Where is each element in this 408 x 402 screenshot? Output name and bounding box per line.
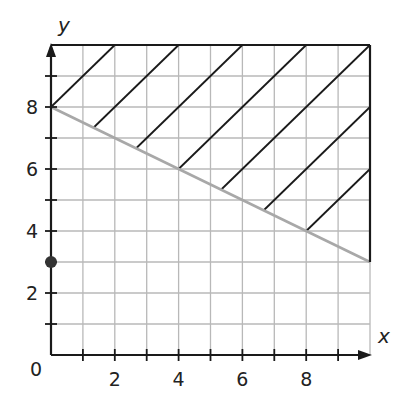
y-tick-label: 4 [26, 220, 38, 242]
y-axis-label: y [57, 13, 71, 37]
x-tick-label: 2 [109, 368, 121, 390]
hatch-line [93, 45, 178, 128]
hatch-line [264, 107, 370, 210]
hatch-line [221, 45, 370, 190]
x-tick-label: 6 [236, 368, 248, 390]
coordinate-plane: 24682468 x y 0 [0, 0, 408, 402]
y-tick-label: 2 [26, 282, 38, 304]
origin-label: 0 [30, 358, 42, 380]
tick-labels: 24682468 [26, 96, 312, 390]
data-points [45, 256, 57, 268]
x-axis-label: x [377, 324, 390, 348]
x-tick-label: 8 [300, 368, 312, 390]
point-marker [45, 256, 57, 268]
x-tick-label: 4 [173, 368, 185, 390]
y-tick-label: 8 [26, 96, 38, 118]
y-tick-label: 6 [26, 158, 38, 180]
hatch-line [136, 45, 242, 148]
